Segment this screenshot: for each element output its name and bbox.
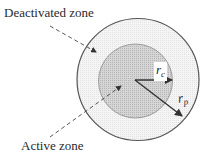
particle-radius-label: rp bbox=[177, 90, 189, 107]
particle-radius-subscript: p bbox=[183, 96, 189, 107]
deactivated-zone-label: Deactivated zone bbox=[4, 6, 94, 19]
core-radius-subscript: c bbox=[161, 69, 165, 79]
active-zone-label: Active zone bbox=[21, 139, 83, 152]
core-radius-label: rc bbox=[154, 62, 167, 81]
diagram-canvas bbox=[0, 0, 207, 155]
deactivated-zone-leader bbox=[50, 26, 96, 52]
particle-zone-diagram: Deactivated zone Active zone rc rp bbox=[0, 0, 207, 155]
